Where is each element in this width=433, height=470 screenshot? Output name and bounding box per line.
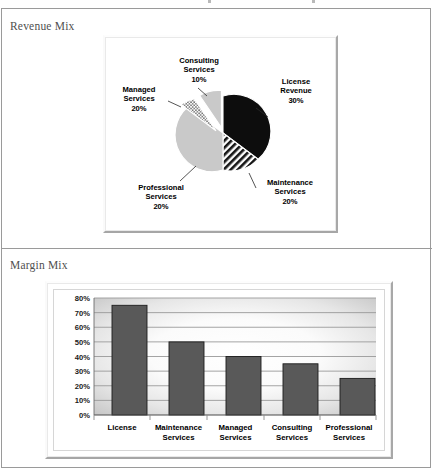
bar-chart-canvas: 80% 70% 60% 50% 40% 30% 20% 10% 0% Licen…	[53, 289, 385, 451]
pie-label-license-revenue: License Revenue 30%	[261, 77, 331, 105]
pie-label-maintenance-line2: Services	[251, 187, 329, 196]
xcat-managed-line2: Services	[207, 433, 264, 443]
pie-label-professional-services: Professional Services 20%	[119, 183, 203, 211]
xcat-maintenance-line2: Services	[150, 433, 207, 443]
pie-label-consulting-line1: Consulting	[154, 56, 244, 65]
xcat-professional-services: Professional Services	[320, 423, 378, 442]
xcat-maintenance-line1: Maintenance	[150, 423, 207, 433]
pie-label-maintenance-pct: 20%	[251, 197, 329, 206]
pie-label-consulting-services: Consulting Services 10%	[154, 56, 244, 84]
pie-label-managed-line1: Managed	[108, 85, 170, 94]
ytick-30: 30%	[54, 367, 90, 376]
ytick-50: 50%	[54, 338, 90, 347]
pie-graphic: Consulting Services 10% License Revenue …	[106, 38, 335, 230]
pie-label-maintenance-line1: Maintenance	[251, 178, 329, 187]
ytick-80: 80%	[54, 294, 90, 303]
pie-label-consulting-line2: Services	[154, 65, 244, 74]
table-row-divider	[2, 248, 432, 249]
bar-chart-plate: 80% 70% 60% 50% 40% 30% 20% 10% 0% Licen…	[48, 284, 390, 456]
xcat-maintenance-services: Maintenance Services	[150, 423, 207, 442]
xcat-professional-line1: Professional	[320, 423, 378, 433]
ytick-70: 70%	[54, 309, 90, 318]
pie-label-professional-line1: Professional	[119, 183, 203, 192]
xcat-managed-line1: Managed	[207, 423, 264, 433]
xcat-consulting-line2: Services	[264, 433, 320, 443]
crop-tick-left	[208, 0, 211, 3]
page-top-crop	[0, 0, 433, 8]
pie-label-consulting-pct: 10%	[154, 75, 244, 84]
pie-label-license-pct: 30%	[261, 96, 331, 105]
bar-managed-services	[226, 357, 261, 416]
pie-label-professional-line2: Services	[119, 192, 203, 201]
pie-label-professional-pct: 20%	[119, 202, 203, 211]
crop-tick-right	[312, 0, 315, 3]
xcat-license-line1: License	[94, 423, 150, 433]
xcat-license: License	[94, 423, 150, 433]
ytick-40: 40%	[54, 353, 90, 362]
margin-mix-bar-chart: 80% 70% 60% 50% 40% 30% 20% 10% 0% Licen…	[45, 281, 393, 459]
margin-mix-row-label: Margin Mix	[10, 259, 68, 271]
leader-line-professional	[180, 166, 196, 181]
xcat-consulting-services: Consulting Services	[264, 423, 320, 442]
revenue-mix-pie-chart: Consulting Services 10% License Revenue …	[103, 35, 338, 233]
pie-label-license-line1: License	[261, 77, 331, 86]
xcat-professional-line2: Services	[320, 433, 378, 443]
ytick-0: 0%	[54, 411, 90, 420]
pie-label-managed-services: Managed Services 20%	[108, 85, 170, 113]
x-axis-ticks	[94, 415, 376, 420]
ytick-20: 20%	[54, 382, 90, 391]
bar-professional-services	[340, 378, 375, 415]
pie-label-managed-pct: 20%	[108, 104, 170, 113]
pie-label-maintenance-services: Maintenance Services 20%	[251, 178, 329, 206]
pie-chart-plot-area: Consulting Services 10% License Revenue …	[106, 38, 335, 230]
xcat-consulting-line1: Consulting	[264, 423, 320, 433]
bar-maintenance-services	[169, 342, 204, 415]
bar-license	[112, 305, 147, 415]
ytick-60: 60%	[54, 323, 90, 332]
document-page: Revenue Mix Margin Mix	[0, 0, 433, 470]
pie-label-license-line2: Revenue	[261, 86, 331, 95]
pie-label-managed-line2: Services	[108, 94, 170, 103]
ytick-10: 10%	[54, 396, 90, 405]
revenue-mix-row-label: Revenue Mix	[10, 20, 74, 32]
bar-consulting-services	[283, 364, 318, 415]
xcat-managed-services: Managed Services	[207, 423, 264, 442]
